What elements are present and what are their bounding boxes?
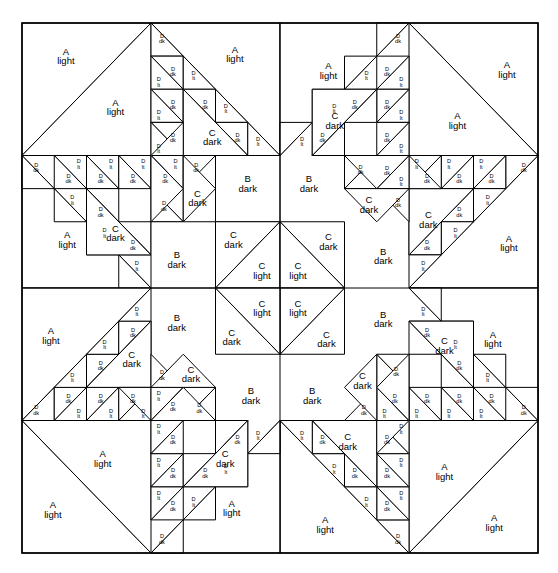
label-d-lt-line2: lt [400, 181, 403, 187]
label-d-dk-line2: dk [162, 178, 168, 184]
label-d-lt-line2: lt [486, 200, 489, 206]
label-a-light-line2: light [316, 524, 334, 535]
label-b-dark-line2: dark [374, 255, 393, 266]
patch-b-dark [151, 222, 216, 288]
label-d-dk-line2: dk [361, 410, 367, 416]
label-a-light-line2: light [484, 338, 502, 349]
label-d-lt-line2: lt [110, 413, 113, 419]
label-d-lt-line2: lt [400, 429, 403, 435]
label-d-lt-line2: lt [454, 344, 457, 350]
label-d-dk-line2: dk [395, 202, 401, 208]
label-a-light-line2: light [58, 239, 76, 250]
label-d-dk-line2: dk [456, 212, 462, 218]
label-d-dk-line2: dk [521, 410, 527, 416]
label-d-lt-line2: lt [383, 413, 386, 419]
label-d-dk-line2: dk [196, 408, 202, 414]
label-d-dk-line2: dk [521, 167, 527, 173]
label-d-lt-line2: lt [448, 164, 451, 170]
label-c-dark-line2: dark [182, 373, 201, 384]
label-d-dk-line2: dk [456, 178, 462, 184]
label-d-lt-line2: lt [400, 148, 403, 154]
label-d-dk-line2: dk [456, 398, 462, 404]
label-d-dk-line2: dk [424, 332, 430, 338]
label-d-dk-line2: dk [130, 398, 136, 404]
label-d-dk-line2: dk [170, 406, 176, 412]
label-a-light-line2: light [44, 509, 62, 520]
label-d-lt-line2: lt [192, 502, 195, 508]
label-d-lt-line2: lt [157, 396, 160, 402]
patch-d-lt [248, 421, 280, 454]
label-c-dark-line2: dark [188, 197, 207, 208]
label-d-lt-line2: lt [71, 200, 74, 206]
label-d-dk-line2: dk [358, 169, 364, 175]
label-d-dk-line2: dk [170, 71, 176, 77]
label-d-dk-line2: dk [384, 71, 390, 77]
label-d-dk-line2: dk [384, 439, 390, 445]
label-d-lt-line2: lt [422, 311, 425, 317]
label-d-lt-line2: lt [224, 108, 227, 114]
label-d-dk-line2: dk [234, 439, 240, 445]
label-d-dk-line2: dk [202, 473, 208, 479]
label-c-dark-line2: dark [319, 241, 338, 252]
label-d-lt-line2: lt [174, 164, 177, 170]
label-d-lt-line2: lt [135, 266, 138, 272]
label-d-lt-line2: lt [142, 413, 145, 419]
label-d-lt-line2: lt [77, 164, 80, 170]
label-d-dk-line2: dk [98, 212, 104, 218]
label-a-light-line2: light [449, 120, 467, 131]
label-d-dk-line2: dk [395, 38, 401, 44]
label-d-dk-line2: dk [352, 473, 358, 479]
label-d-lt-line2: lt [77, 413, 80, 419]
label-d-dk-line2: dk [384, 170, 390, 176]
patch-d-lt [280, 122, 312, 155]
label-a-light-line2: light [436, 471, 454, 482]
label-d-dk-line2: dk [489, 398, 495, 404]
label-b-dark-line2: dark [300, 183, 319, 194]
label-a-light-line2: light [223, 507, 241, 518]
patch-d-lt [345, 56, 377, 89]
label-d-dk-line2: dk [65, 178, 71, 184]
label-d-dk-line2: dk [130, 332, 136, 338]
patch-d-lt [183, 487, 215, 520]
label-d-lt-line2: lt [257, 141, 260, 147]
label-d-dk-line2: dk [489, 178, 495, 184]
label-d-dk-line2: dk [392, 398, 398, 404]
label-d-dk-line2: dk [98, 365, 104, 371]
label-d-lt-line2: lt [110, 164, 113, 170]
label-d-dk-line2: dk [98, 398, 104, 404]
label-c-dark-line2: dark [326, 120, 345, 131]
label-d-dk-line2: dk [170, 506, 176, 512]
label-d-lt-line2: lt [257, 435, 260, 441]
label-d-lt-line2: lt [135, 311, 138, 317]
label-d-dk-line2: dk [159, 375, 165, 381]
label-d-dk-line2: dk [130, 245, 136, 251]
label-d-lt-line2: lt [333, 108, 336, 114]
label-d-lt-line2: lt [157, 462, 160, 468]
label-c-dark-line2: dark [106, 232, 125, 243]
label-a-light-line2: light [485, 522, 503, 533]
label-c-dark-line2: dark [222, 336, 241, 347]
label-d-lt-line2: lt [192, 75, 195, 81]
label-c-dark-line2: dark [435, 345, 454, 356]
label-d-lt-line2: lt [400, 495, 403, 501]
label-c-dark-line2: dark [360, 204, 379, 215]
label-d-dk-line2: dk [384, 104, 390, 110]
label-d-dk-line2: dk [33, 410, 39, 416]
label-b-dark-line2: dark [374, 318, 393, 329]
patch-d-dk [377, 23, 409, 56]
label-c-dark-line2: dark [122, 358, 141, 369]
label-d-lt-line2: lt [333, 469, 336, 475]
label-d-lt-line2: lt [486, 377, 489, 383]
label-d-lt-line2: lt [157, 115, 160, 121]
label-d-lt-line2: lt [157, 82, 160, 88]
label-d-dk-line2: dk [395, 539, 401, 545]
label-d-lt-line2: lt [400, 115, 403, 121]
label-d-lt-line2: lt [157, 495, 160, 501]
label-c-light-line2: light [253, 307, 271, 318]
label-d-dk-line2: dk [130, 178, 136, 184]
label-a-light-line2: light [42, 335, 60, 346]
label-a-light-line2: light [94, 458, 112, 469]
label-d-lt-line2: lt [103, 344, 106, 350]
label-d-dk-line2: dk [159, 539, 165, 545]
label-b-dark-line2: dark [168, 259, 187, 270]
